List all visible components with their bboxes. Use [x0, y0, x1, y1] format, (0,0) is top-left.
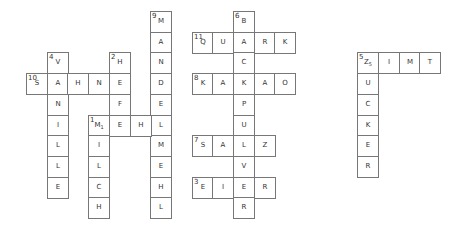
crossword-cell[interactable]: P: [233, 94, 255, 116]
crossword-cell[interactable]: C: [233, 52, 255, 74]
cell-letter: H: [110, 58, 130, 66]
crossword-cell[interactable]: K: [274, 32, 296, 54]
crossword-cell[interactable]: U: [357, 73, 379, 95]
crossword-cell[interactable]: E: [150, 94, 172, 116]
crossword-cell[interactable]: I: [47, 115, 69, 137]
crossword-cell[interactable]: 7S: [192, 135, 214, 157]
crossword-cell[interactable]: C: [88, 177, 110, 199]
crossword-cell[interactable]: E: [357, 135, 379, 157]
cell-letter: Q: [193, 38, 213, 46]
crossword-cell[interactable]: N: [88, 73, 110, 95]
cell-letter: R: [255, 183, 275, 191]
cell-letter: E: [110, 79, 130, 87]
crossword-cell[interactable]: A: [212, 73, 234, 95]
crossword-cell[interactable]: R: [233, 197, 255, 219]
crossword-cell[interactable]: A: [233, 32, 255, 54]
cell-letter: L: [151, 203, 171, 211]
crossword-cell[interactable]: L: [47, 156, 69, 178]
crossword-cell[interactable]: L: [47, 135, 69, 157]
crossword-cell[interactable]: 9M: [150, 11, 172, 33]
crossword-cell[interactable]: U: [212, 32, 234, 54]
cell-letter: H: [151, 183, 171, 191]
cell-letter: L: [48, 162, 68, 170]
cell-letter: A: [213, 79, 233, 87]
crossword-cell[interactable]: H: [88, 197, 110, 219]
crossword-cell[interactable]: E: [109, 115, 131, 137]
crossword-cell[interactable]: 6B: [233, 11, 255, 33]
crossword-cell[interactable]: V: [233, 156, 255, 178]
cell-letter: S: [27, 79, 47, 87]
crossword-cell[interactable]: 3E: [192, 177, 214, 199]
cell-letter: C: [234, 58, 254, 66]
crossword-cell[interactable]: U: [233, 115, 255, 137]
cell-letter: I: [48, 121, 68, 129]
crossword-cell[interactable]: L: [233, 135, 255, 157]
crossword-cell[interactable]: K: [233, 73, 255, 95]
cell-letter: V: [48, 58, 68, 66]
crossword-cell[interactable]: O: [274, 73, 296, 95]
crossword-cell[interactable]: I: [88, 135, 110, 157]
cell-letter: H: [68, 79, 88, 87]
cell-letter: L: [234, 141, 254, 149]
crossword-cell[interactable]: 10S: [26, 73, 48, 95]
crossword-cell[interactable]: N: [150, 52, 172, 74]
cell-letter: A: [213, 141, 233, 149]
crossword-cell[interactable]: E: [233, 177, 255, 199]
crossword-cell[interactable]: A: [254, 73, 276, 95]
cell-letter: V: [234, 162, 254, 170]
cell-letter: U: [358, 79, 378, 87]
crossword-cell[interactable]: M: [150, 135, 172, 157]
cell-letter: A: [151, 38, 171, 46]
cell-letter: Z: [255, 141, 275, 149]
cell-letter: F: [110, 100, 130, 108]
cell-letter: I: [89, 141, 109, 149]
cell-letter: L: [151, 121, 171, 129]
crossword-cell[interactable]: M: [399, 52, 421, 74]
cell-letter: S: [193, 141, 213, 149]
crossword-cell[interactable]: 2H: [109, 52, 131, 74]
crossword-cell[interactable]: 5Z5: [357, 52, 379, 74]
crossword-cell[interactable]: R: [254, 177, 276, 199]
cell-letter: R: [234, 203, 254, 211]
crossword-cell[interactable]: H: [67, 73, 89, 95]
crossword-cell[interactable]: L: [88, 156, 110, 178]
cell-subscript: 5: [369, 61, 372, 67]
cell-letter: T: [420, 58, 440, 66]
cell-letter: I: [379, 58, 399, 66]
crossword-cell[interactable]: C: [357, 94, 379, 116]
cell-letter: H: [131, 121, 151, 129]
crossword-cell[interactable]: F: [109, 94, 131, 116]
crossword-cell[interactable]: N: [47, 94, 69, 116]
crossword-cell[interactable]: D: [150, 73, 172, 95]
cell-letter: K: [275, 38, 295, 46]
crossword-cell[interactable]: I: [212, 177, 234, 199]
crossword-cell[interactable]: I: [378, 52, 400, 74]
cell-letter: C: [89, 183, 109, 191]
crossword-cell[interactable]: E: [109, 73, 131, 95]
crossword-cell[interactable]: H: [130, 115, 152, 137]
cell-letter: C: [358, 100, 378, 108]
cell-letter: E: [110, 121, 130, 129]
crossword-cell[interactable]: 4V: [47, 52, 69, 74]
crossword-cell[interactable]: T: [419, 52, 441, 74]
cell-letter: R: [358, 162, 378, 170]
crossword-cell[interactable]: E: [150, 156, 172, 178]
crossword-cell[interactable]: R: [357, 156, 379, 178]
crossword-cell[interactable]: 1M1: [88, 115, 110, 137]
cell-letter: E: [151, 162, 171, 170]
crossword-cell[interactable]: 8K: [192, 73, 214, 95]
cell-letter: D: [151, 79, 171, 87]
crossword-cell[interactable]: K: [357, 115, 379, 137]
crossword-cell[interactable]: E: [47, 177, 69, 199]
crossword-cell[interactable]: A: [150, 32, 172, 54]
crossword-grid: 9MANDELMEHL10SAHNE4VNILLE2HF1M1EHILCH6B1…: [0, 0, 459, 234]
cell-letter: A: [48, 79, 68, 87]
crossword-cell[interactable]: H: [150, 177, 172, 199]
crossword-cell[interactable]: A: [212, 135, 234, 157]
crossword-cell[interactable]: L: [150, 197, 172, 219]
crossword-cell[interactable]: 11Q: [192, 32, 214, 54]
crossword-cell[interactable]: Z: [254, 135, 276, 157]
crossword-cell[interactable]: L: [150, 115, 172, 137]
crossword-cell[interactable]: R: [254, 32, 276, 54]
crossword-cell[interactable]: A: [47, 73, 69, 95]
